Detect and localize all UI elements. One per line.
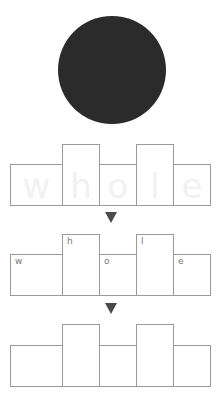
letter-box-5 (173, 345, 211, 387)
ghost-letter: h (63, 169, 99, 203)
letter-box-3: o (99, 164, 137, 206)
letter-box-2: h (62, 144, 100, 206)
ghost-letter: e (174, 169, 210, 203)
down-arrow-icon (105, 212, 117, 223)
letter-box-4: l (136, 234, 174, 296)
letter-box-5: e (173, 254, 211, 296)
letter-box-2 (62, 324, 100, 387)
down-arrow-icon (105, 303, 117, 314)
letter-box-2: h (62, 234, 100, 296)
ghost-letter: l (137, 169, 173, 203)
ghost-letter: w (11, 169, 62, 203)
dark-circle-image (58, 16, 166, 124)
letter-box-1: w (10, 254, 63, 296)
letter-label: w (15, 257, 22, 266)
letter-box-3 (99, 345, 137, 387)
letter-label: e (178, 257, 184, 266)
letter-box-5: e (173, 164, 211, 206)
letter-label: l (141, 237, 144, 246)
letter-box-1 (10, 345, 63, 387)
letter-box-4 (136, 324, 174, 387)
letter-box-4: l (136, 144, 174, 206)
letter-box-1: w (10, 164, 63, 206)
letter-label: o (104, 257, 110, 266)
letter-box-3: o (99, 254, 137, 296)
letter-label: h (67, 237, 73, 246)
ghost-letter: o (100, 169, 136, 203)
